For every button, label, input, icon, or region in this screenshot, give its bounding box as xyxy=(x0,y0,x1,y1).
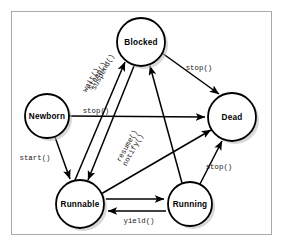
node-runnable[interactable]: Runnable xyxy=(56,180,107,231)
edge-label-newborn-dead: stop() xyxy=(83,107,110,115)
state-diagram: Newborn Blocked Dead Runnable xyxy=(0,0,287,249)
diagram-canvas: Newborn Blocked Dead Runnable xyxy=(0,0,287,249)
edge-label-yield: yield() xyxy=(123,217,154,225)
node-blocked[interactable]: Blocked xyxy=(117,18,168,69)
node-blocked-label: Blocked xyxy=(124,38,157,47)
edge-newborn-runnable xyxy=(55,137,70,179)
node-newborn[interactable]: Newborn xyxy=(25,94,72,141)
edge-blocked-dead xyxy=(162,53,219,94)
edge-label-running-dead: stop() xyxy=(206,163,233,171)
node-newborn-label: Newborn xyxy=(29,112,65,121)
edge-newborn-dead xyxy=(69,116,205,117)
edge-label-newborn-runnable: start() xyxy=(19,154,50,162)
node-dead[interactable]: Dead xyxy=(208,93,259,144)
edge-running-blocked xyxy=(150,66,182,183)
node-running-label: Running xyxy=(173,200,208,209)
node-running[interactable]: Running xyxy=(168,182,215,229)
node-runnable-label: Runnable xyxy=(61,200,100,209)
node-dead-label: Dead xyxy=(222,113,243,122)
edge-label-blocked-dead: stop() xyxy=(186,64,213,72)
